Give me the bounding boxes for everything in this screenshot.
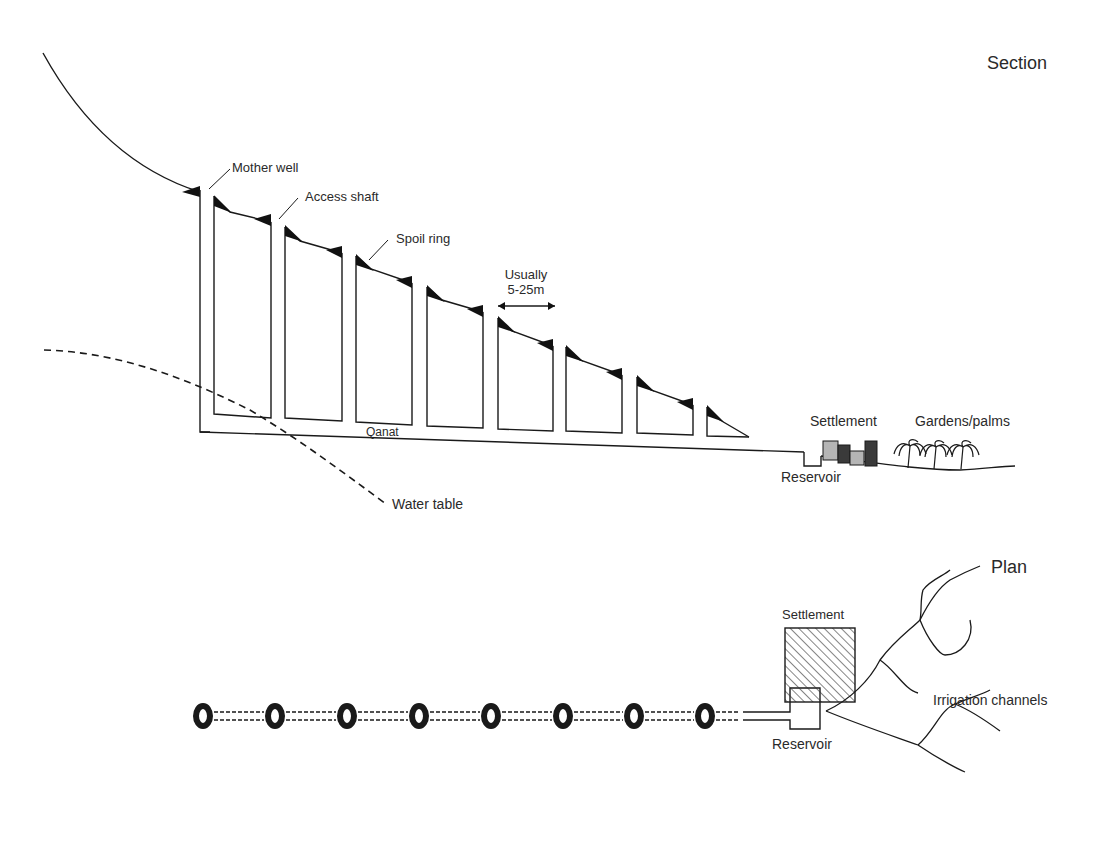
label-spacing-line2: 5-25m (496, 283, 556, 296)
settlement-buildings (823, 441, 877, 466)
access-shaft (566, 347, 622, 433)
plan-tunnel (214, 712, 740, 720)
water-table (44, 350, 386, 504)
label-section-reservoir: Reservoir (781, 470, 841, 484)
well-ring (196, 706, 210, 726)
leader-spoil-ring (369, 240, 388, 260)
label-access-shaft: Access shaft (305, 190, 379, 203)
label-qanat: Qanat (366, 426, 399, 438)
well-ring (268, 706, 282, 726)
plan-settlement (785, 628, 855, 702)
shafts (200, 190, 749, 437)
label-plan-settlement: Settlement (782, 608, 844, 621)
access-shaft (285, 227, 342, 421)
plan-wells (196, 706, 712, 726)
plan-title: Plan (991, 558, 1027, 576)
well-ring (627, 706, 641, 726)
well-ring (698, 706, 712, 726)
well-ring (556, 706, 570, 726)
leader-access-shaft (279, 198, 298, 219)
label-section-settlement: Settlement (810, 414, 877, 428)
label-irrigation: Irrigation channels (933, 693, 1047, 707)
label-gardens: Gardens/palms (915, 414, 1010, 428)
plan-view (196, 566, 1000, 772)
leader-mother-well (209, 169, 230, 189)
label-spoil-ring: Spoil ring (396, 232, 450, 245)
qanat-tunnel (200, 432, 804, 452)
reservoir-pit (804, 452, 821, 466)
ground-surface (43, 53, 200, 192)
access-shaft (498, 318, 553, 431)
mother-well-shaft (200, 190, 271, 432)
spoil-ring (182, 186, 200, 197)
spacing-arrow (498, 302, 555, 310)
well-ring (340, 706, 354, 726)
well-ring (484, 706, 498, 726)
label-plan-reservoir: Reservoir (772, 737, 832, 751)
section-title: Section (987, 54, 1047, 72)
label-spacing-line1: Usually (496, 268, 556, 281)
label-water-table: Water table (392, 497, 463, 511)
label-mother-well: Mother well (232, 161, 298, 174)
well-ring (412, 706, 426, 726)
palm-trees (894, 440, 979, 469)
label-spacing: Usually 5-25m (496, 268, 556, 296)
